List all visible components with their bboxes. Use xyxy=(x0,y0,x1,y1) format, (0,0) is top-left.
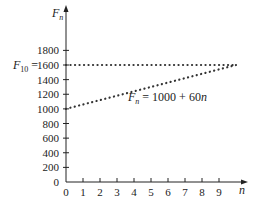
y-tick-label: 0 xyxy=(54,176,60,188)
annotation-fn-equation: Fn = 1000 + 60n xyxy=(127,90,207,106)
y-tick-label: 600 xyxy=(43,132,60,144)
y-axis-label: Fn xyxy=(51,6,63,22)
x-tick-label: 8 xyxy=(199,186,205,198)
x-tick-label: 9 xyxy=(216,186,222,198)
x-tick-label: 6 xyxy=(165,186,171,198)
y-tick-label: 200 xyxy=(43,161,60,173)
y-axis-arrow-icon xyxy=(64,5,69,12)
x-tick-label: 5 xyxy=(148,186,154,198)
y-tick-label: 1600 xyxy=(37,59,60,71)
x-tick-label: 1 xyxy=(80,186,86,198)
y-tick-label: 1200 xyxy=(37,88,60,100)
y-tick-label: 1800 xyxy=(37,44,60,56)
y-tick-label: 1400 xyxy=(37,74,60,86)
x-tick-label: 4 xyxy=(131,186,137,198)
y-tick-label: 800 xyxy=(43,118,60,130)
labels: 0200400600800100012001400160018000123456… xyxy=(12,6,245,198)
x-tick-label: 7 xyxy=(182,186,188,198)
y-tick-label: 400 xyxy=(43,147,60,159)
x-tick-label: 0 xyxy=(63,186,69,198)
x-tick-label: 2 xyxy=(97,186,103,198)
chart: 0200400600800100012001400160018000123456… xyxy=(0,0,253,198)
x-tick-label: 3 xyxy=(114,186,120,198)
x-axis-label: n xyxy=(239,183,245,197)
annotation-f10: F10 = xyxy=(12,58,38,74)
y-tick-label: 1000 xyxy=(37,103,60,115)
